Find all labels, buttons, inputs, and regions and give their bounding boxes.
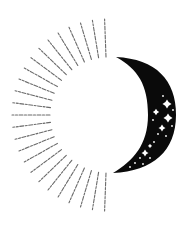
star-dot bbox=[171, 125, 173, 127]
star-dot bbox=[134, 162, 136, 164]
star-dot bbox=[149, 157, 151, 159]
star-dot bbox=[142, 163, 144, 165]
sun-moon-emblem bbox=[0, 0, 191, 228]
sun-ray bbox=[39, 48, 66, 74]
sun-rays-icon bbox=[12, 19, 106, 211]
sun-ray bbox=[31, 150, 62, 173]
star-dot bbox=[162, 95, 164, 97]
sun-ray bbox=[19, 79, 54, 93]
sun-ray bbox=[48, 160, 72, 190]
sun-ray bbox=[69, 168, 84, 203]
sun-ray bbox=[58, 165, 78, 198]
emblem-canvas bbox=[0, 0, 191, 228]
sun-ray bbox=[105, 19, 106, 57]
star-dot bbox=[165, 135, 167, 137]
sun-ray bbox=[15, 130, 52, 140]
sun-ray bbox=[81, 171, 92, 207]
sun-ray bbox=[58, 33, 78, 66]
star-dot bbox=[157, 133, 159, 135]
sun-ray bbox=[81, 23, 92, 59]
sun-ray bbox=[13, 103, 51, 108]
star-dot bbox=[152, 119, 154, 121]
sun-ray bbox=[69, 27, 84, 62]
star-dot bbox=[153, 141, 155, 143]
sun-ray bbox=[24, 143, 57, 162]
sun-ray bbox=[24, 68, 57, 87]
sun-ray bbox=[92, 20, 98, 58]
star-dot bbox=[129, 166, 131, 168]
star-dot bbox=[139, 157, 141, 159]
sun-ray bbox=[92, 172, 98, 210]
sun-ray bbox=[48, 40, 72, 70]
sun-ray bbox=[31, 58, 62, 81]
sun-ray bbox=[39, 155, 66, 181]
sun-ray bbox=[19, 137, 54, 151]
sun-ray bbox=[13, 122, 51, 127]
star-dot bbox=[172, 109, 174, 111]
sun-ray bbox=[105, 173, 106, 211]
sun-ray bbox=[15, 91, 52, 101]
crescent-moon-icon bbox=[113, 57, 176, 173]
